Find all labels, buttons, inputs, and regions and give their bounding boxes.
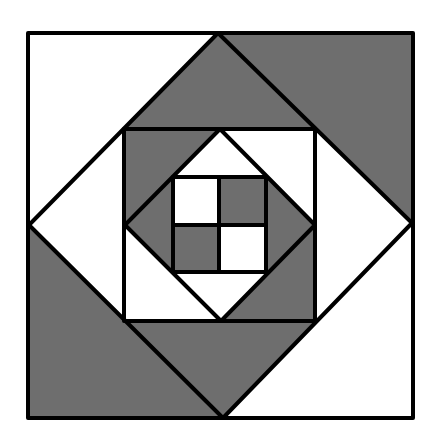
center-cell-bottom-right-region (219, 225, 266, 272)
center-cell-bottom-left-region (173, 225, 219, 272)
center-cell-top-right-region (219, 177, 266, 225)
quilt-block-figure: Square-in-a-square quilt block (0, 0, 437, 446)
quilt-block-drawing (0, 0, 437, 446)
center-cell-top-left-region (173, 177, 219, 225)
